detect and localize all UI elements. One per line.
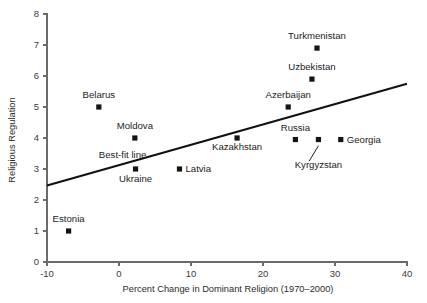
data-point-label: Ukraine (119, 173, 152, 184)
data-point[interactable]: Moldova (117, 120, 154, 141)
data-point-label: Uzbekistan (288, 61, 335, 72)
data-point-marker[interactable] (177, 166, 182, 171)
x-tick-label: 0 (116, 268, 121, 279)
y-tick-label: 8 (34, 8, 39, 19)
y-tick-label: 5 (34, 101, 39, 112)
x-axis-title: Percent Change in Dominant Religion (197… (123, 284, 334, 294)
data-point-label: Estonia (53, 213, 86, 224)
y-tick-label: 3 (34, 163, 39, 174)
data-point[interactable]: Latvia (177, 163, 212, 174)
data-point[interactable]: Estonia (53, 213, 86, 234)
x-tick-label: 20 (258, 268, 269, 279)
data-point-label: Latvia (185, 163, 211, 174)
data-point-marker[interactable] (309, 77, 314, 82)
data-point-marker[interactable] (316, 137, 321, 142)
chart-container: 012345678-10010203040 Best-fit line Esto… (0, 0, 427, 303)
x-tick-label: 30 (330, 268, 341, 279)
data-point[interactable]: Georgia (338, 134, 381, 145)
data-points-group: EstoniaBelarusMoldovaUkraineLatviaKazakh… (53, 30, 382, 234)
data-point-label: Kazakhstan (212, 141, 262, 152)
data-point[interactable]: Uzbekistan (288, 61, 335, 82)
y-axis-title: Religious Regulation (7, 97, 17, 182)
data-point[interactable]: Ukraine (119, 166, 152, 184)
data-point[interactable]: Turkmenistan (288, 30, 346, 51)
data-point-marker[interactable] (133, 166, 138, 171)
data-point-label: Russia (281, 122, 311, 133)
data-point[interactable]: Azerbaijan (266, 89, 311, 110)
data-point-label: Azerbaijan (266, 89, 311, 100)
data-point[interactable]: Russia (281, 122, 311, 143)
y-tick-label: 4 (34, 132, 39, 143)
data-point-label: Kyrgyzstan (295, 159, 342, 170)
y-tick-label: 0 (34, 256, 39, 267)
data-point-marker[interactable] (66, 228, 71, 233)
data-point-marker[interactable] (132, 135, 137, 140)
x-tick-label: 10 (186, 268, 197, 279)
data-point-label: Georgia (347, 134, 382, 145)
data-point-label: Belarus (83, 89, 116, 100)
y-tick-label: 1 (34, 225, 39, 236)
data-point[interactable]: Belarus (83, 89, 116, 110)
data-point-marker[interactable] (338, 137, 343, 142)
y-tick-label: 6 (34, 70, 39, 81)
data-point-marker[interactable] (286, 104, 291, 109)
data-point-marker[interactable] (234, 135, 239, 140)
scatter-plot: 012345678-10010203040 Best-fit line Esto… (0, 0, 427, 303)
best-fit-line-label: Best-fit line (99, 149, 146, 160)
x-tick-label: -10 (40, 268, 54, 279)
data-point[interactable]: Kazakhstan (212, 135, 262, 152)
data-point-marker[interactable] (293, 137, 298, 142)
data-point-marker[interactable] (96, 104, 101, 109)
data-point-marker[interactable] (314, 46, 319, 51)
x-tick-label: 40 (402, 268, 413, 279)
data-point[interactable]: Kyrgyzstan (295, 137, 342, 170)
y-tick-label: 7 (34, 39, 39, 50)
y-tick-label: 2 (34, 194, 39, 205)
data-point-label: Moldova (117, 120, 154, 131)
data-point-label: Turkmenistan (288, 30, 346, 41)
